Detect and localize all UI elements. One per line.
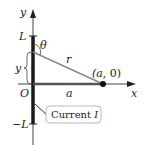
theta-label: θ	[40, 39, 47, 52]
y-segment-label: y	[14, 62, 22, 75]
point-a0	[100, 81, 106, 87]
callout-text: Current I	[51, 109, 99, 120]
current-wire-diagram: y x O L −L y θ r a (a, 0) Current I	[0, 0, 146, 147]
y-axis-arrow-icon	[30, 9, 36, 18]
y-brace	[24, 52, 31, 84]
origin-label: O	[20, 87, 29, 100]
point-label: (a, 0)	[92, 67, 121, 80]
L-label: L	[18, 30, 26, 43]
a-label: a	[66, 87, 73, 100]
x-axis-label: x	[131, 87, 138, 100]
r-label: r	[66, 53, 72, 66]
minus-L-label: −L	[12, 118, 29, 131]
y-axis-label: y	[19, 6, 27, 19]
callout-pointer	[35, 104, 47, 115]
